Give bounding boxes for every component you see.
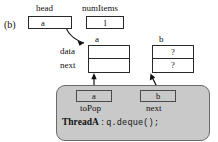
node-a-box — [88, 45, 130, 73]
node-b-label: b — [159, 35, 164, 44]
topop-to-node-a-arrowhead — [91, 73, 96, 79]
nextvar-value: b — [140, 92, 176, 101]
thread-code: q.deque(); — [106, 118, 159, 128]
node-a-data-field-label: data — [60, 47, 75, 56]
node-a-next-field-label: next — [60, 61, 76, 70]
node-a-label: a — [95, 35, 99, 44]
thread-name: ThreadA — [62, 117, 99, 127]
node-b-bottom-value: ? — [152, 61, 194, 70]
num-items-value: 1 — [86, 19, 124, 28]
nextvar-label: next — [146, 104, 162, 113]
topop-label: toPop — [80, 104, 101, 113]
panel-label: (b) — [4, 20, 16, 30]
head-value: a — [28, 19, 58, 28]
node-b-top-value: ? — [152, 48, 194, 57]
node-a-divider — [88, 58, 130, 59]
num-items-label: numItems — [82, 4, 118, 13]
head-label: head — [36, 4, 53, 13]
thread-caption: ThreadA : q.deque(); — [62, 118, 202, 128]
linked-list-thread-diagram: (b) head a numItems 1 a data next b ? ? … — [0, 0, 218, 142]
node-b-divider — [152, 58, 194, 59]
topop-value: a — [76, 92, 112, 101]
